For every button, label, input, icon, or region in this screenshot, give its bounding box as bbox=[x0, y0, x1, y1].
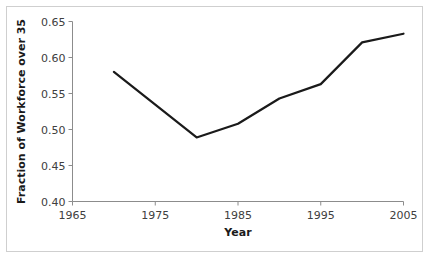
y-axis-tick-label: 0.60 bbox=[41, 52, 66, 65]
x-axis-tick-label: 1965 bbox=[59, 209, 87, 222]
y-axis-title: Fraction of Workforce over 35 bbox=[15, 19, 28, 204]
chart-figure: 0.400.450.500.550.600.651965197519851995… bbox=[0, 0, 431, 261]
y-axis-tick-label: 0.65 bbox=[41, 16, 66, 29]
y-axis-tick-label: 0.55 bbox=[41, 88, 66, 101]
x-axis-tick-label: 1975 bbox=[141, 209, 169, 222]
y-axis-tick-label: 0.50 bbox=[41, 124, 66, 137]
y-axis-tick-label: 0.40 bbox=[41, 196, 66, 209]
x-axis-tick-label: 1985 bbox=[224, 209, 252, 222]
data-series-line bbox=[114, 34, 404, 138]
line-chart-plot: 0.400.450.500.550.600.651965197519851995… bbox=[0, 0, 431, 261]
x-axis-tick-label: 2005 bbox=[390, 209, 418, 222]
x-axis-tick-label: 1995 bbox=[307, 209, 335, 222]
x-axis-title: Year bbox=[223, 226, 252, 239]
y-axis-tick-label: 0.45 bbox=[41, 160, 66, 173]
